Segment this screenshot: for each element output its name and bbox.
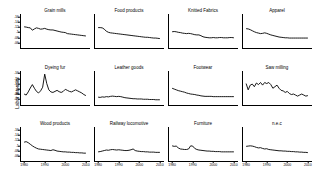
chart-panel: Grain mills.06.08.1.12.14.16 xyxy=(20,8,90,48)
plot-area: 1980199020002010 xyxy=(242,127,312,161)
series-line xyxy=(98,96,160,100)
x-tick-label: 2010 xyxy=(230,163,238,167)
y-tick-mark xyxy=(18,78,20,79)
x-tick-label: 2000 xyxy=(209,163,217,167)
y-tick-mark xyxy=(18,83,20,84)
series-svg xyxy=(168,14,238,48)
panel-title: n.e.c xyxy=(242,121,312,126)
x-axis-line xyxy=(20,161,90,162)
series-svg xyxy=(168,127,238,161)
y-tick-mark xyxy=(18,145,20,146)
panel-title: Leather goods xyxy=(94,65,164,70)
x-axis-line xyxy=(242,161,312,162)
y-tick-mark xyxy=(18,73,20,74)
series-line xyxy=(246,29,308,38)
chart-panel: Apparel xyxy=(242,8,312,48)
x-tick-mark xyxy=(287,161,288,163)
panel-title: Footwear xyxy=(168,65,238,70)
x-axis-line xyxy=(20,105,90,106)
panel-title: Furniture xyxy=(168,121,238,126)
x-tick-mark xyxy=(118,161,119,163)
y-axis-line xyxy=(168,14,169,48)
x-axis-line xyxy=(94,161,164,162)
y-tick-mark xyxy=(18,27,20,28)
y-axis-line xyxy=(94,71,95,105)
y-tick-mark xyxy=(18,135,20,136)
series-svg xyxy=(20,14,90,48)
y-axis-line xyxy=(20,14,21,48)
series-line xyxy=(246,146,308,153)
x-tick-label: 1980 xyxy=(20,163,28,167)
x-tick-label: 1990 xyxy=(115,163,123,167)
x-tick-mark xyxy=(234,161,235,163)
chart-panel: Dyeing fur.06.08.1.12.14.16 xyxy=(20,65,90,105)
panel-grid: Grain mills.06.08.1.12.14.16Food product… xyxy=(20,8,312,178)
panel-title: Wood products xyxy=(20,121,90,126)
chart-panel: Footwear xyxy=(168,65,238,105)
x-tick-label: 2000 xyxy=(135,163,143,167)
y-axis-line xyxy=(168,127,169,161)
x-axis-line xyxy=(94,48,164,49)
plot-area: .06.08.1.12.14.16 xyxy=(20,71,90,105)
plot-area xyxy=(242,14,312,48)
panel-title: Grain mills xyxy=(20,8,90,13)
y-tick-mark xyxy=(18,42,20,43)
plot-area xyxy=(168,71,238,105)
series-line xyxy=(98,149,160,152)
x-axis-line xyxy=(242,48,312,49)
chart-panel: Knitted Fabrics xyxy=(168,8,238,48)
x-tick-mark xyxy=(44,161,45,163)
x-tick-mark xyxy=(86,161,87,163)
series-svg xyxy=(242,71,312,105)
y-axis-line xyxy=(20,127,21,161)
x-tick-label: 1990 xyxy=(41,163,49,167)
series-line xyxy=(246,82,308,96)
x-axis-line xyxy=(242,105,312,106)
x-axis-line xyxy=(20,48,90,49)
plot-area xyxy=(168,14,238,48)
x-tick-mark xyxy=(246,161,247,163)
x-tick-mark xyxy=(139,161,140,163)
figure: Labor intensity Grain mills.06.08.1.12.1… xyxy=(0,0,314,185)
series-svg xyxy=(20,71,90,105)
plot-area: 1980199020002010 xyxy=(168,127,238,161)
x-axis-line xyxy=(94,105,164,106)
x-tick-label: 2010 xyxy=(82,163,90,167)
y-axis-line xyxy=(242,71,243,105)
plot-area: 1980199020002010 xyxy=(94,127,164,161)
plot-area: .06.08.1.12.14.16 xyxy=(20,14,90,48)
series-svg xyxy=(242,14,312,48)
series-line xyxy=(172,146,234,152)
chart-panel: Saw milling xyxy=(242,65,312,105)
plot-area xyxy=(94,14,164,48)
x-tick-mark xyxy=(98,161,99,163)
x-tick-label: 2000 xyxy=(61,163,69,167)
y-axis-line xyxy=(168,71,169,105)
y-tick-mark xyxy=(18,22,20,23)
x-axis-line xyxy=(168,48,238,49)
x-tick-mark xyxy=(308,161,309,163)
y-tick-mark xyxy=(18,37,20,38)
plot-area xyxy=(94,71,164,105)
series-svg xyxy=(94,127,164,161)
series-line xyxy=(172,88,234,96)
y-axis-line xyxy=(94,127,95,161)
chart-panel: Railway locomotive1980199020002010 xyxy=(94,121,164,161)
y-tick-mark xyxy=(18,156,20,157)
y-tick-mark xyxy=(18,32,20,33)
y-tick-mark xyxy=(18,94,20,95)
panel-title: Knitted Fabrics xyxy=(168,8,238,13)
x-tick-mark xyxy=(172,161,173,163)
x-axis-line xyxy=(168,105,238,106)
chart-panel: Food products xyxy=(94,8,164,48)
x-tick-label: 1990 xyxy=(263,163,271,167)
y-tick-mark xyxy=(18,99,20,100)
chart-panel: Leather goods xyxy=(94,65,164,105)
y-tick-mark xyxy=(18,130,20,131)
chart-panel: Wood products.06.08.1.12.14.161980199020… xyxy=(20,121,90,161)
series-svg xyxy=(94,71,164,105)
x-tick-mark xyxy=(65,161,66,163)
plot-area xyxy=(242,71,312,105)
panel-title: Saw milling xyxy=(242,65,312,70)
plot-area: .06.08.1.12.14.161980199020002010 xyxy=(20,127,90,161)
